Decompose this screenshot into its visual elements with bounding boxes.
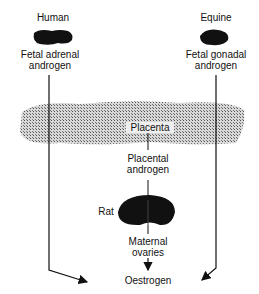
fetal-gonadal-label: Fetal gonadal androgen [176,49,256,71]
oestrogen-label: Oestrogen [118,275,178,286]
maternal-ovaries-label: Maternal ovaries [118,236,178,258]
human-label: Human [30,12,76,23]
equine-gonad-icon [200,30,228,46]
placenta-label: Placenta [126,122,174,133]
equine-label: Equine [193,12,239,23]
placental-androgen-label: Placental androgen [118,153,178,175]
human-adrenal-icon [34,30,73,45]
fetal-adrenal-label: Fetal adrenal androgen [15,49,85,71]
rat-ovary-icon [118,195,175,225]
rat-label: Rat [96,206,116,217]
